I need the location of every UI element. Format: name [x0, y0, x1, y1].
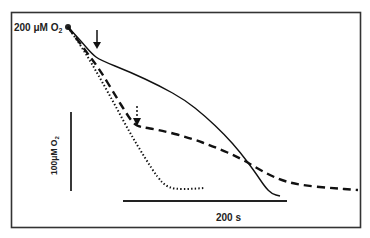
oxygen-consumption-chart: 200 μM O2 100μM O2 200 s	[0, 0, 370, 238]
series-solid-line	[68, 27, 280, 196]
solid-arrow-icon	[93, 30, 101, 49]
dashed-arrow-icon	[133, 106, 141, 126]
chart-frame	[12, 13, 361, 228]
vertical-scale-label: 100μM O2	[49, 136, 60, 175]
horizontal-scale-label: 200 s	[216, 212, 241, 223]
start-label: 200 μM O2	[14, 22, 62, 34]
series-dashed-line	[68, 27, 358, 190]
